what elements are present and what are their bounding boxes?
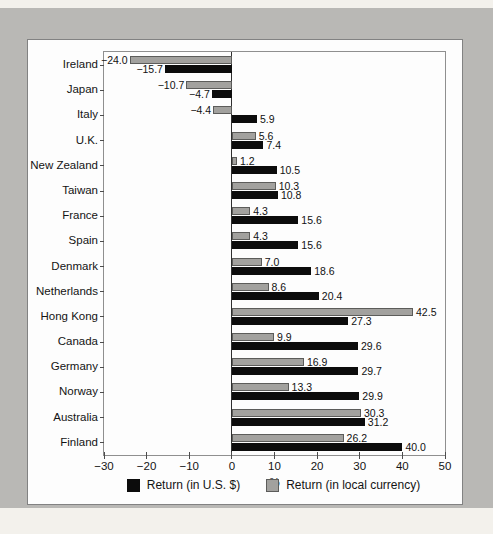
figure-backdrop: Ireland−24.0−15.7Japan−10.7−4.7Italy−4.4…: [0, 8, 493, 508]
legend-label-us-dollar: Return (in U.S. $): [147, 478, 240, 492]
bar-us-australia: [232, 418, 365, 426]
bar-us-spain: [232, 241, 298, 249]
category-label-netherlands: Netherlands: [24, 279, 98, 304]
bar-value-local-netherlands: 8.6: [272, 282, 287, 292]
x-axis-tick-label-20: 20: [297, 460, 337, 472]
x-axis-tick-50: [445, 452, 446, 459]
bar-value-local-japan: −10.7: [158, 80, 185, 90]
bar-value-local-italy: −4.4: [190, 105, 211, 115]
category-label-italy: Italy: [24, 102, 98, 127]
category-label-germany: Germany: [24, 354, 98, 379]
bar-local-france: [232, 207, 250, 215]
bar-us-new-zealand: [232, 166, 277, 174]
scanned-page: Ireland−24.0−15.7Japan−10.7−4.7Italy−4.4…: [0, 0, 493, 534]
category-label-u-k: U.K.: [24, 128, 98, 153]
chart-legend: Return (in U.S. $) Return (in local curr…: [103, 478, 444, 492]
bar-us-italy: [232, 115, 257, 123]
bar-value-us-italy: 5.9: [260, 114, 275, 124]
y-axis-tick-taiwan: [100, 191, 104, 192]
bar-us-germany: [232, 367, 359, 375]
bar-value-us-norway: 29.9: [362, 391, 382, 401]
x-axis-tick-label-0: 0: [212, 460, 252, 472]
category-label-ireland: Ireland: [24, 52, 98, 77]
x-axis-tick-20: [317, 452, 318, 459]
bar-local-netherlands: [232, 283, 269, 291]
bar-us-france: [232, 216, 298, 224]
bar-us-norway: [232, 392, 359, 400]
bar-local-taiwan: [232, 182, 276, 190]
bar-local-u-k: [232, 132, 256, 140]
bar-value-local-spain: 4.3: [253, 231, 268, 241]
bar-value-us-new-zealand: 10.5: [280, 165, 300, 175]
y-axis-tick-new-zealand: [100, 165, 104, 166]
bar-value-local-ireland: −24.0: [101, 55, 128, 65]
bar-value-local-new-zealand: 1.2: [240, 156, 255, 166]
category-label-new-zealand: New Zealand: [24, 153, 98, 178]
bar-local-spain: [232, 232, 250, 240]
y-axis-tick-u-k: [100, 140, 104, 141]
y-axis-tick-denmark: [100, 266, 104, 267]
bar-us-hong-kong: [232, 317, 348, 325]
x-axis-tick-label-10: 10: [255, 460, 295, 472]
bar-value-us-france: 15.6: [301, 215, 321, 225]
category-label-taiwan: Taiwan: [24, 178, 98, 203]
y-axis-tick-france: [100, 216, 104, 217]
bar-value-us-australia: 31.2: [368, 417, 388, 427]
bar-local-australia: [232, 409, 361, 417]
bar-local-norway: [232, 383, 289, 391]
y-axis-tick-hong-kong: [100, 316, 104, 317]
bar-us-finland: [232, 443, 403, 451]
plot-area: Ireland−24.0−15.7Japan−10.7−4.7Italy−4.4…: [103, 51, 446, 456]
bar-value-local-norway: 13.3: [292, 382, 312, 392]
chart-panel: Ireland−24.0−15.7Japan−10.7−4.7Italy−4.4…: [27, 39, 463, 505]
y-axis-tick-finland: [100, 442, 104, 443]
bar-value-us-canada: 29.6: [361, 341, 381, 351]
bar-value-us-spain: 15.6: [301, 240, 321, 250]
bar-us-denmark: [232, 267, 311, 275]
x-axis-tick--10: [189, 452, 190, 459]
bar-local-denmark: [232, 258, 262, 266]
y-axis-tick-norway: [100, 392, 104, 393]
bar-value-us-finland: 40.0: [405, 442, 425, 452]
bar-value-us-netherlands: 20.4: [322, 291, 342, 301]
bar-us-taiwan: [232, 191, 278, 199]
bar-local-hong-kong: [232, 308, 413, 316]
local-currency-swatch-icon: [266, 479, 279, 492]
y-axis-tick-japan: [100, 90, 104, 91]
bar-value-us-taiwan: 10.8: [281, 190, 301, 200]
legend-item-us-dollar: Return (in U.S. $): [127, 478, 240, 492]
x-axis-tick-label--20: −20: [127, 460, 167, 472]
x-axis-tick-30: [359, 452, 360, 459]
bar-value-local-france: 4.3: [253, 206, 268, 216]
bar-value-local-denmark: 7.0: [265, 257, 280, 267]
bar-value-us-denmark: 18.6: [314, 266, 334, 276]
bar-value-local-finland: 26.2: [347, 433, 367, 443]
category-label-hong-kong: Hong Kong: [24, 304, 98, 329]
category-label-japan: Japan: [24, 77, 98, 102]
bar-local-finland: [232, 434, 344, 442]
bar-us-netherlands: [232, 292, 319, 300]
x-axis-tick-10: [274, 452, 275, 459]
y-axis-tick-italy: [100, 115, 104, 116]
bar-us-canada: [232, 342, 358, 350]
bar-value-us-hong-kong: 27.3: [351, 316, 371, 326]
y-axis-tick-spain: [100, 241, 104, 242]
bar-us-japan: [212, 90, 232, 98]
bar-us-u-k: [232, 141, 264, 149]
x-axis-tick-label-40: 40: [382, 460, 422, 472]
x-axis-tick-label--10: −10: [169, 460, 209, 472]
category-label-denmark: Denmark: [24, 254, 98, 279]
bar-value-us-japan: −4.7: [189, 89, 210, 99]
category-label-norway: Norway: [24, 379, 98, 404]
bar-value-us-ireland: −15.7: [136, 64, 163, 74]
bar-local-new-zealand: [232, 157, 237, 165]
bar-local-italy: [213, 106, 232, 114]
category-label-canada: Canada: [24, 329, 98, 354]
legend-label-local-currency: Return (in local currency): [286, 478, 420, 492]
category-label-spain: Spain: [24, 228, 98, 253]
bar-local-germany: [232, 358, 304, 366]
x-axis-tick--30: [104, 452, 105, 459]
us-dollar-swatch-icon: [127, 479, 140, 492]
legend-item-local-currency: Return (in local currency): [266, 478, 420, 492]
x-axis-tick-0: [231, 452, 232, 459]
